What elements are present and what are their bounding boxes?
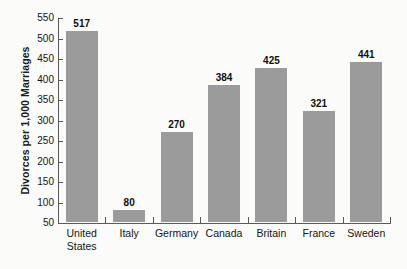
y-axis-tick: [58, 39, 63, 40]
y-axis-tick: [58, 121, 63, 122]
bar-value-label: 321: [295, 97, 343, 110]
bar-value-label: 384: [200, 71, 248, 84]
y-axis-tick: [58, 59, 63, 60]
bar: [350, 62, 382, 222]
bar: [66, 31, 98, 222]
y-axis-tick: [58, 100, 63, 101]
y-axis-tick: [58, 182, 63, 183]
bar-value-label: 441: [342, 48, 390, 61]
y-axis-tick-label: 550: [28, 12, 54, 24]
bar: [161, 132, 193, 222]
x-axis-tick: [390, 217, 391, 224]
bar: [303, 111, 335, 222]
y-axis-tick-label: 200: [28, 156, 54, 168]
bar-value-label: 517: [58, 17, 106, 30]
y-axis-tick-label: 400: [28, 74, 54, 86]
bar-chart-figure: Divorces per 1,000 Marriages 55050045040…: [0, 0, 407, 269]
y-axis-tick-label: 50: [28, 217, 54, 229]
x-axis-tick: [153, 217, 154, 224]
y-axis-tick-label: 350: [28, 94, 54, 106]
y-axis-tick-label: 100: [28, 197, 54, 209]
y-axis-tick: [58, 141, 63, 142]
bar-value-label: 425: [247, 54, 295, 67]
bar-value-label: 80: [105, 196, 153, 209]
x-axis-tick: [248, 217, 249, 224]
y-axis-tick-labels: 55050045040035030025020015010050: [26, 18, 54, 223]
y-axis-tick-label: 300: [28, 115, 54, 127]
bar: [113, 210, 145, 222]
plot-area: [58, 18, 390, 223]
y-axis-tick-label: 450: [28, 53, 54, 65]
bar: [208, 85, 240, 222]
x-axis-line: [58, 223, 390, 224]
x-axis-category-label: Sweden: [337, 227, 396, 240]
x-axis-tick: [200, 217, 201, 224]
x-axis-tick: [105, 217, 106, 224]
bar: [255, 68, 287, 222]
y-axis-tick: [58, 223, 63, 224]
y-axis-tick: [58, 162, 63, 163]
y-axis-tick-label: 150: [28, 176, 54, 188]
y-axis-tick: [58, 203, 63, 204]
y-axis-tick: [58, 80, 63, 81]
y-axis-tick-label: 500: [28, 33, 54, 45]
x-axis-tick: [295, 217, 296, 224]
bar-value-label: 270: [153, 118, 201, 131]
x-axis-tick: [343, 217, 344, 224]
y-axis-tick-label: 250: [28, 135, 54, 147]
